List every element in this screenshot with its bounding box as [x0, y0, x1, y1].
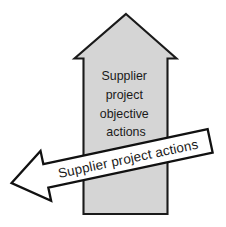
- up-arrow-label-line-2: project: [106, 88, 144, 102]
- diagram-canvas: Supplier project objective actions Suppl…: [0, 0, 226, 227]
- diagram-svg: Supplier project objective actions Suppl…: [0, 0, 226, 227]
- up-arrow-label-line-4: actions: [106, 125, 145, 139]
- up-arrow-label-line-3: objective: [100, 107, 149, 121]
- up-arrow-label-line-1: Supplier: [102, 69, 147, 83]
